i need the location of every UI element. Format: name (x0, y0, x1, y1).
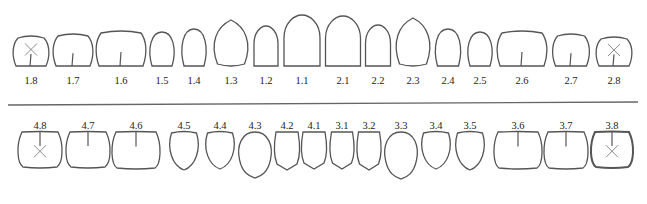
tooth-label-3.7: 3.7 (559, 120, 572, 131)
tooth-4.7[interactable] (66, 132, 110, 169)
tooth-2.3[interactable] (396, 18, 430, 66)
tooth-label-3.2: 3.2 (362, 120, 375, 131)
tooth-2.2[interactable] (366, 25, 391, 66)
tooth-outline (53, 34, 93, 66)
tooth-outline (239, 132, 272, 178)
tooth-label-2.7: 2.7 (564, 75, 577, 86)
tooth-4.2[interactable] (275, 132, 300, 170)
tooth-1.5[interactable] (150, 32, 174, 66)
tooth-4.3[interactable] (239, 132, 272, 178)
tooth-label-4.4: 4.4 (213, 120, 226, 131)
tooth-outline (13, 36, 49, 66)
tooth-outline (396, 18, 430, 66)
tooth-label-1.3: 1.3 (224, 75, 237, 86)
tooth-label-2.4: 2.4 (441, 75, 454, 86)
tooth-outline (553, 34, 590, 66)
tooth-3.8[interactable] (591, 132, 633, 169)
teeth-diagram (0, 0, 647, 204)
tooth-outline (182, 29, 206, 66)
tooth-outline (326, 16, 361, 66)
tooth-3.1[interactable] (330, 132, 354, 169)
tooth-label-2.5: 2.5 (473, 75, 486, 86)
tooth-label-2.6: 2.6 (515, 75, 528, 86)
tooth-2.8[interactable] (596, 37, 632, 66)
tooth-2.7[interactable] (553, 34, 590, 66)
tooth-label-1.2: 1.2 (259, 75, 272, 86)
tooth-1.4[interactable] (182, 29, 206, 66)
tooth-outline (214, 20, 248, 66)
tooth-outline (435, 29, 460, 66)
tooth-1.1[interactable] (284, 15, 320, 66)
tooth-label-4.8: 4.8 (33, 120, 46, 131)
tooth-label-1.4: 1.4 (187, 75, 200, 86)
tooth-4.1[interactable] (302, 132, 327, 169)
tooth-label-4.6: 4.6 (129, 120, 142, 131)
tooth-2.5[interactable] (468, 32, 492, 66)
tooth-3.5[interactable] (456, 132, 485, 171)
tooth-label-3.1: 3.1 (335, 120, 348, 131)
tooth-label-3.6: 3.6 (511, 120, 524, 131)
tooth-outline (275, 132, 300, 170)
tooth-4.8[interactable] (18, 132, 62, 169)
tooth-1.8[interactable] (13, 36, 49, 66)
tooth-4.5[interactable] (170, 132, 199, 171)
tooth-4.6[interactable] (112, 132, 160, 170)
tooth-1.6[interactable] (96, 31, 146, 66)
tooth-3.4[interactable] (422, 132, 451, 170)
tooth-outline (497, 31, 547, 66)
tooth-label-3.3: 3.3 (394, 120, 407, 131)
tooth-label-1.6: 1.6 (114, 75, 127, 86)
tooth-4.4[interactable] (206, 132, 235, 170)
tooth-label-2.1: 2.1 (336, 75, 349, 86)
tooth-label-3.8: 3.8 (605, 120, 618, 131)
tooth-label-2.8: 2.8 (607, 75, 620, 86)
tooth-label-4.2: 4.2 (280, 120, 293, 131)
tooth-label-3.5: 3.5 (463, 120, 476, 131)
tooth-label-4.7: 4.7 (81, 120, 94, 131)
tooth-outline (366, 25, 391, 66)
tooth-outline (468, 32, 492, 66)
tooth-outline (254, 26, 278, 66)
tooth-3.6[interactable] (494, 132, 542, 170)
jaw-divider (8, 102, 638, 105)
tooth-label-4.5: 4.5 (177, 120, 190, 131)
tooth-3.2[interactable] (357, 132, 381, 170)
tooth-1.3[interactable] (214, 20, 248, 66)
tooth-2.6[interactable] (497, 31, 547, 66)
tooth-outline (96, 31, 146, 66)
tooth-outline (170, 132, 199, 171)
tooth-label-1.8: 1.8 (24, 75, 37, 86)
tooth-label-1.5: 1.5 (155, 75, 168, 86)
tooth-label-1.1: 1.1 (295, 75, 308, 86)
tooth-outline (456, 132, 485, 171)
tooth-label-4.3: 4.3 (248, 120, 261, 131)
tooth-1.2[interactable] (254, 26, 278, 66)
tooth-outline (357, 132, 381, 170)
tooth-outline (302, 132, 327, 169)
tooth-1.7[interactable] (53, 34, 93, 66)
tooth-label-3.4: 3.4 (429, 120, 442, 131)
tooth-3.7[interactable] (544, 132, 588, 170)
tooth-outline (596, 37, 632, 66)
tooth-outline (206, 132, 235, 170)
tooth-outline (385, 132, 418, 179)
tooth-2.1[interactable] (326, 16, 361, 66)
tooth-outline (284, 15, 320, 66)
tooth-label-2.3: 2.3 (406, 75, 419, 86)
tooth-3.3[interactable] (385, 132, 418, 179)
tooth-2.4[interactable] (435, 29, 460, 66)
dental-chart: 1.81.71.61.51.41.31.21.12.12.22.32.42.52… (0, 0, 647, 204)
tooth-outline (150, 32, 174, 66)
tooth-label-2.2: 2.2 (371, 75, 384, 86)
tooth-label-4.1: 4.1 (307, 120, 320, 131)
tooth-label-1.7: 1.7 (66, 75, 79, 86)
tooth-outline (330, 132, 354, 169)
tooth-outline (422, 132, 451, 170)
